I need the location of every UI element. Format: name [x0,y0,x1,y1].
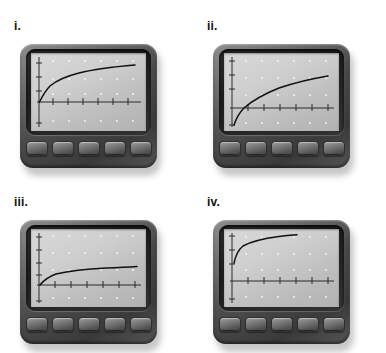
device-button-2[interactable] [245,317,267,332]
panel-label-ii: ii. [207,20,218,32]
figure-canvas: i. [0,0,386,353]
button-row-ii [219,141,345,158]
button-row-iv [219,317,345,334]
device-bezel [219,49,344,135]
device-button-3[interactable] [78,317,100,332]
graphing-device-i[interactable] [20,44,161,173]
panel-label-iii: iii. [14,196,28,208]
device-button-3[interactable] [271,141,293,156]
plot-iv [224,229,339,307]
axes-ii [229,57,334,127]
panel-i: i. [0,0,193,176]
curve-i [40,65,136,102]
button-row-i [26,141,152,158]
device-bezel [26,225,151,311]
axes-iii [36,233,141,303]
plot-ii [224,53,339,131]
device-button-1[interactable] [26,317,48,332]
device-button-4[interactable] [297,141,319,156]
device-screen [224,53,339,131]
panel-label-iv: iv. [207,196,220,208]
panel-iv: iv. [193,176,386,352]
device-button-2[interactable] [245,141,267,156]
graphing-device-ii[interactable] [213,44,354,173]
plot-iii [31,229,146,307]
panel-ii: ii. [193,0,386,176]
device-body [20,220,157,344]
device-button-4[interactable] [104,317,126,332]
device-button-4[interactable] [297,317,319,332]
curve-iv [234,235,297,263]
grid-dots-ii [245,60,327,124]
device-button-2[interactable] [52,317,74,332]
device-screen [224,229,339,307]
grid-dots-iv [245,236,327,298]
device-bezel [219,225,344,311]
device-body [213,44,350,168]
device-body [213,220,350,344]
plot-i [31,53,146,131]
panel-label-i: i. [14,20,21,32]
device-button-1[interactable] [219,141,241,156]
device-button-1[interactable] [26,141,48,156]
axes-i [36,57,141,127]
panel-iii: iii. [0,176,193,352]
device-button-5[interactable] [130,317,152,332]
device-screen [31,229,146,307]
device-button-1[interactable] [219,317,241,332]
device-button-4[interactable] [104,141,126,156]
device-button-3[interactable] [271,317,293,332]
device-body [20,44,157,168]
graphing-device-iii[interactable] [20,220,161,349]
device-button-5[interactable] [130,141,152,156]
curve-ii [234,76,328,125]
grid-dots-i [52,60,134,122]
axes-iv [229,233,334,303]
device-bezel [26,49,151,135]
device-button-5[interactable] [323,317,345,332]
device-button-3[interactable] [78,141,100,156]
graphing-device-iv[interactable] [213,220,354,349]
device-screen [31,53,146,131]
button-row-iii [26,317,152,334]
device-button-2[interactable] [52,141,74,156]
device-button-5[interactable] [323,141,345,156]
